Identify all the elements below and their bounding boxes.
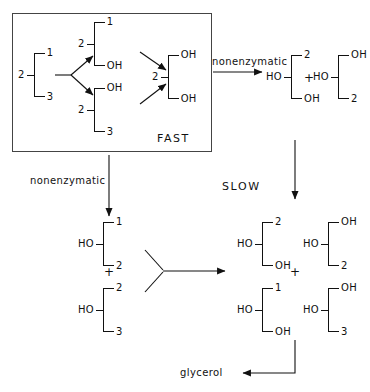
- molecule-lead-label: 2: [78, 39, 87, 49]
- position-label-bottom: 2: [116, 261, 123, 271]
- position-label-bottom: 3: [107, 127, 114, 137]
- fork-left-upper: [145, 250, 163, 270]
- bracket: OH 2: [328, 222, 344, 266]
- position-label-top: 1: [107, 17, 114, 27]
- molecule-lead-label: 2: [18, 70, 27, 80]
- position-label-top: OH: [107, 83, 123, 93]
- bracket: 1 3: [34, 53, 50, 97]
- position-label-bottom: OH: [275, 327, 291, 337]
- molecule-substrate: 2 1 3: [18, 53, 50, 97]
- bracket: OH 2: [338, 55, 354, 99]
- molecule-lead-label: HO: [78, 305, 96, 315]
- label-slow: SLOW: [222, 180, 261, 193]
- molecule-lead-label: 2: [78, 105, 87, 115]
- molecule-slow-a: HO 2 OH: [237, 222, 278, 266]
- label-nonenzymatic-left: nonenzymatic: [30, 175, 105, 186]
- molecule-fast-product: 2 OH OH: [152, 55, 184, 99]
- position-label-top: 2: [116, 283, 123, 293]
- molecule-fast-lower: 2 OH 3: [78, 88, 110, 132]
- molecule-topright-b: HO OH 2: [313, 55, 354, 99]
- bracket: 1 OH: [94, 22, 110, 66]
- plus-operator: +: [104, 266, 114, 278]
- position-label-top: OH: [351, 50, 367, 60]
- position-label-top: 1: [275, 283, 282, 293]
- molecule-lead-label: HO: [303, 239, 321, 249]
- molecule-lead-label: HO: [78, 239, 96, 249]
- molecule-fast-upper: 2 1 OH: [78, 22, 110, 66]
- fork-left-lower: [145, 272, 163, 292]
- bond-stub: [87, 110, 94, 111]
- bond-stub: [96, 310, 103, 311]
- molecule-left-b: HO 2 3: [78, 288, 119, 332]
- position-label-top: OH: [341, 217, 357, 227]
- bracket: 2 3: [103, 288, 119, 332]
- bond-stub: [321, 310, 328, 311]
- molecule-lead-label: HO: [237, 305, 255, 315]
- position-label-top: 2: [275, 217, 282, 227]
- plus-operator: +: [290, 266, 300, 278]
- molecule-lead-label: HO: [313, 72, 331, 82]
- bracket: OH 3: [94, 88, 110, 132]
- reaction-scheme-diagram: 2 1 3 2 1 OH 2 OH 3: [0, 0, 370, 392]
- position-label-top: 2: [304, 50, 311, 60]
- bond-stub: [87, 44, 94, 45]
- bracket: 1 OH: [262, 288, 278, 332]
- molecule-slow-c: HO 1 OH: [237, 288, 278, 332]
- bond-stub: [161, 77, 168, 78]
- molecule-lead-label: HO: [266, 72, 284, 82]
- position-label-bottom: OH: [275, 261, 291, 271]
- position-label-bottom: 2: [341, 261, 348, 271]
- label-nonenzymatic-top: nonenzymatic: [212, 56, 287, 67]
- position-label-bottom: 2: [351, 94, 358, 104]
- bracket: OH OH: [168, 55, 184, 99]
- molecule-lead-label: 2: [152, 72, 161, 82]
- molecule-lead-label: HO: [237, 239, 255, 249]
- position-label-bottom: OH: [107, 61, 123, 71]
- position-label-bottom: 3: [47, 92, 54, 102]
- position-label-top: 1: [47, 48, 54, 58]
- position-label-bottom: 3: [341, 327, 348, 337]
- bond-stub: [321, 244, 328, 245]
- molecule-slow-b: HO OH 2: [303, 222, 344, 266]
- bond-stub: [96, 244, 103, 245]
- label-fast: FAST: [157, 132, 190, 145]
- molecule-left-a: HO 1 2: [78, 222, 119, 266]
- label-glycerol: glycerol: [180, 367, 223, 378]
- bond-stub: [255, 310, 262, 311]
- bond-stub: [255, 244, 262, 245]
- bracket: 2 OH: [262, 222, 278, 266]
- bond-stub: [331, 77, 338, 78]
- arrow-to-glycerol: [243, 340, 295, 373]
- bracket: OH 3: [328, 288, 344, 332]
- position-label-top: OH: [181, 50, 197, 60]
- position-label-bottom: OH: [181, 94, 197, 104]
- bond-stub: [27, 75, 34, 76]
- bond-stub: [284, 77, 291, 78]
- position-label-bottom: 3: [116, 327, 123, 337]
- position-label-top: 1: [116, 217, 123, 227]
- molecule-lead-label: HO: [303, 305, 321, 315]
- bracket: 1 2: [103, 222, 119, 266]
- molecule-slow-d: HO OH 3: [303, 288, 344, 332]
- position-label-top: OH: [341, 283, 357, 293]
